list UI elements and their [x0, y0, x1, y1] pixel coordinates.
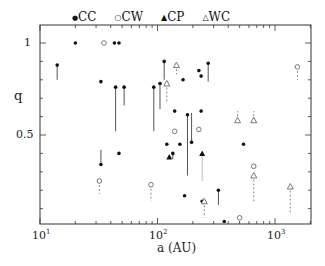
plot-frame	[40, 25, 311, 224]
data-point-cw	[149, 182, 154, 187]
x-tick-label-10-2: 102	[149, 228, 167, 242]
data-point-cc	[99, 80, 103, 84]
data-point-cc	[206, 61, 210, 65]
data-point-cc	[242, 142, 246, 146]
data-point-cw	[97, 179, 102, 184]
data-point-cw	[251, 164, 256, 169]
data-point-cc	[217, 188, 221, 192]
data-point-cc	[165, 142, 169, 146]
data-point-cp	[199, 150, 205, 156]
x-tick-label-10-1: 101	[32, 228, 50, 242]
data-point-cc	[181, 78, 185, 82]
y-tick-label-1: 1	[24, 36, 31, 49]
data-point-cc	[183, 194, 187, 198]
data-point-cc	[114, 85, 118, 89]
data-point-wc	[251, 117, 257, 123]
data-point-cc	[162, 60, 166, 64]
data-point-cw	[172, 129, 177, 134]
data-point-cc	[122, 85, 126, 89]
data-point-cc	[55, 63, 59, 67]
data-point-cc	[171, 152, 175, 156]
y-tick-label-0-5: 0.5	[16, 128, 34, 141]
x-axis-label: a (AU)	[157, 241, 196, 255]
data-point-cc	[117, 41, 121, 45]
data-point-cc	[186, 113, 190, 117]
data-point-cc	[152, 85, 156, 89]
data-point-cc	[173, 109, 177, 113]
data-point-cc	[117, 152, 121, 156]
data-point-cc	[74, 41, 78, 45]
data-point-cc	[199, 74, 203, 78]
data-point-wc	[287, 184, 293, 190]
data-point-cp	[166, 154, 172, 160]
data-point-cw	[237, 216, 242, 221]
data-point-cw	[295, 65, 300, 70]
data-point-cc	[222, 220, 226, 224]
data-point-cw	[197, 127, 202, 132]
data-point-wc	[164, 80, 170, 86]
data-point-cc	[113, 41, 117, 45]
data-point-wc	[173, 62, 179, 68]
data-point-cc	[199, 109, 203, 113]
data-point-cc	[99, 163, 103, 167]
data-point-cc	[158, 82, 162, 86]
data-point-wc	[251, 172, 257, 178]
x-tick-label-10-3: 103	[267, 228, 285, 242]
data-point-wc	[235, 117, 241, 123]
data-point-cc	[178, 142, 182, 146]
scatter-plot	[0, 0, 325, 266]
y-axis-label: q	[14, 88, 22, 103]
data-point-cw	[102, 41, 107, 46]
data-point-cc	[197, 69, 201, 73]
data-point-cc	[190, 141, 194, 145]
